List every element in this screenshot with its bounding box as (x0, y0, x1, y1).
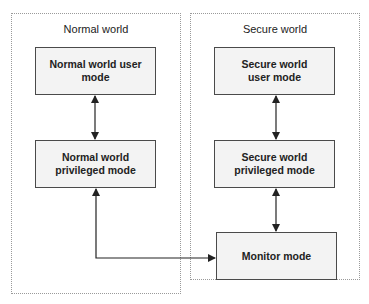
connection-arrows (0, 0, 369, 304)
arrow-normal-priv-to-monitor (96, 189, 215, 258)
